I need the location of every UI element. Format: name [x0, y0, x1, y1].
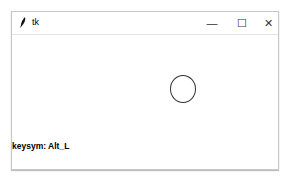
maximize-icon: ☐ [237, 17, 247, 30]
minimize-icon: — [207, 17, 218, 29]
minimize-button[interactable]: — [196, 12, 228, 34]
close-icon: ✕ [264, 17, 273, 30]
canvas[interactable]: keysym: Alt_L [12, 34, 278, 169]
close-button[interactable]: ✕ [252, 12, 284, 34]
feather-icon [20, 17, 26, 28]
keysym-label: keysym: Alt_L [12, 141, 69, 151]
window-title: tk [32, 17, 39, 27]
tk-window: tk — ☐ ✕ keysym: Alt_L [11, 11, 279, 170]
circle-shape [170, 75, 196, 103]
title-bar[interactable]: tk — ☐ ✕ [12, 12, 278, 35]
